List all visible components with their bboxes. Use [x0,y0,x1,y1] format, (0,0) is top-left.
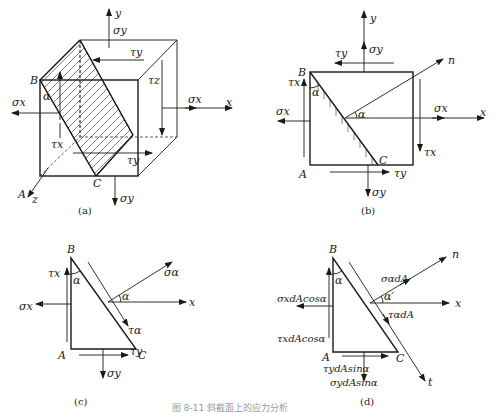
sigma-x-right-label: σx [188,93,203,106]
point-c-label: C [93,177,102,190]
stress-analysis-diagram: y x z A B C α σx σx σy σy τy τy τx τz (a… [0,0,500,413]
sigma-y-force-label: σydAsinα [330,377,378,388]
tau-x-force-label: τxdAcosα [277,333,326,344]
sigma-y-bottom-label: σy [372,186,387,199]
tau-x-label: τx [48,267,61,280]
figure-caption: 图 8-11 斜截面上的应力分析 [172,402,288,413]
alpha-normal-label: α′ [384,290,394,303]
point-a-label: A [57,349,66,362]
point-b-label: B [328,243,337,256]
sigma-y-top-label: σy [369,43,384,56]
alpha-arc [381,296,383,303]
sigma-alpha-force-label: σαdA [381,273,408,284]
n-axis-label: n [448,54,455,67]
x-axis-label: x [480,106,487,119]
tau-y-label: τy [130,345,143,358]
sigma-alpha-arrow [108,262,172,302]
point-a-label: A [298,168,307,181]
tau-z-label: τz [148,74,160,87]
sigma-y-bottom-label: σy [120,192,135,205]
z-axis-arrow [28,168,48,197]
tau-x-right-label: τx [424,146,437,159]
panel-d-triangle: B A C α α′ x n t σxdAcosα τxdAcosα τydAs… [277,243,462,407]
alpha-corner-label: α [312,86,320,99]
alpha-arc [119,295,121,302]
panel-c-triangle: B A C α α x σx τx τy σy σα τα (c) [19,243,196,407]
x-axis-label: x [455,297,462,310]
tau-x-left-label: τx [288,76,301,89]
sigma-x-force-label: σxdAcosα [277,293,327,304]
point-a-label: A [17,188,26,201]
tau-alpha-force-label: ταdA [388,309,414,320]
tau-y-bottom-label: τy [127,154,140,167]
alpha-label: α [43,90,51,103]
panel-a-cube: y x z A B C α σx σx σy σy τy τy τx τz (a… [0,0,233,292]
panel-b-caption: (b) [361,205,375,216]
sigma-x-label: σx [19,300,34,313]
oblique-plane-hatch [0,0,160,292]
point-c-label: C [396,352,405,365]
tau-alpha-label: τα [128,324,142,337]
z-axis-label: z [31,193,38,206]
alpha-corner-label: α [73,274,81,287]
point-c-label: C [379,154,388,167]
point-b-label: B [29,74,38,87]
sigma-y-label: σy [107,367,122,380]
alpha-normal-label: α [358,108,366,121]
sigma-y-top-label: σy [113,24,128,37]
panel-d-caption: (d) [360,396,374,407]
triangle-abc [71,258,136,349]
tau-y-force-label: τydAsinα [323,363,370,374]
tau-x-label: τx [51,138,64,151]
y-axis-label: y [369,12,377,25]
t-axis-label: t [428,376,433,389]
oblique-section [310,72,378,165]
sigma-x-left-label: σx [276,105,291,118]
n-axis-label: n [452,248,459,261]
panel-b-element: y x n B A C α α σx σx σy σy τy τy τx τx … [276,11,487,216]
tau-y-top-label: τy [335,47,348,60]
tau-y-bottom-label: τy [394,167,407,180]
tau-y-top-label: τy [130,46,143,59]
y-axis-label: y [114,7,122,20]
alpha-arc [355,112,357,118]
alpha-normal-label: α [122,290,130,303]
point-b-label: B [66,243,75,256]
panel-c-caption: (c) [74,396,88,407]
x-axis-label: x [189,296,196,309]
sigma-alpha-label: σα [164,266,180,279]
sigma-x-left-label: σx [12,96,27,109]
panel-a-caption: (a) [78,205,92,216]
alpha-corner-label: α [335,274,343,287]
section-hatch [318,83,372,165]
x-axis-label: x [226,96,233,109]
sigma-x-right-label: σx [434,102,449,115]
